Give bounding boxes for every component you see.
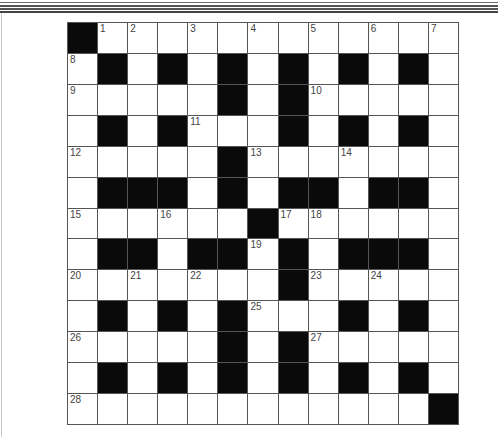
crossword-cell[interactable] xyxy=(248,394,278,425)
crossword-cell[interactable] xyxy=(188,147,218,178)
crossword-cell[interactable] xyxy=(128,116,158,147)
crossword-cell[interactable] xyxy=(158,332,188,363)
crossword-cell[interactable] xyxy=(399,23,429,54)
crossword-cell[interactable] xyxy=(248,116,278,147)
crossword-cell[interactable] xyxy=(128,54,158,85)
crossword-cell[interactable] xyxy=(188,301,218,332)
crossword-cell[interactable] xyxy=(399,394,429,425)
crossword-cell[interactable] xyxy=(399,147,429,178)
crossword-cell[interactable]: 4 xyxy=(248,23,278,54)
crossword-cell[interactable] xyxy=(248,363,278,394)
crossword-cell[interactable] xyxy=(309,54,339,85)
crossword-cell[interactable] xyxy=(429,301,459,332)
crossword-cell[interactable] xyxy=(218,209,248,240)
crossword-cell[interactable] xyxy=(399,270,429,301)
crossword-cell[interactable] xyxy=(98,394,128,425)
crossword-cell[interactable] xyxy=(248,178,278,209)
crossword-cell[interactable]: 23 xyxy=(309,270,339,301)
crossword-cell[interactable] xyxy=(339,23,369,54)
crossword-cell[interactable] xyxy=(309,363,339,394)
crossword-cell[interactable]: 1 xyxy=(98,23,128,54)
crossword-cell[interactable] xyxy=(128,363,158,394)
crossword-cell[interactable] xyxy=(158,270,188,301)
crossword-cell[interactable] xyxy=(248,85,278,116)
crossword-cell[interactable] xyxy=(98,270,128,301)
crossword-cell[interactable]: 26 xyxy=(68,332,98,363)
crossword-cell[interactable] xyxy=(279,147,309,178)
crossword-cell[interactable]: 6 xyxy=(369,23,399,54)
crossword-cell[interactable] xyxy=(369,394,399,425)
crossword-cell[interactable] xyxy=(339,209,369,240)
crossword-cell[interactable] xyxy=(429,147,459,178)
crossword-cell[interactable]: 22 xyxy=(188,270,218,301)
crossword-cell[interactable]: 28 xyxy=(68,394,98,425)
crossword-cell[interactable] xyxy=(188,209,218,240)
crossword-cell[interactable]: 11 xyxy=(188,116,218,147)
crossword-cell[interactable]: 24 xyxy=(369,270,399,301)
crossword-cell[interactable]: 14 xyxy=(339,147,369,178)
crossword-cell[interactable] xyxy=(429,209,459,240)
crossword-cell[interactable] xyxy=(188,332,218,363)
crossword-cell[interactable] xyxy=(158,147,188,178)
crossword-cell[interactable] xyxy=(429,116,459,147)
crossword-cell[interactable] xyxy=(369,147,399,178)
crossword-cell[interactable]: 16 xyxy=(158,209,188,240)
crossword-cell[interactable]: 7 xyxy=(429,23,459,54)
crossword-cell[interactable] xyxy=(248,270,278,301)
crossword-cell[interactable] xyxy=(158,85,188,116)
crossword-cell[interactable] xyxy=(98,147,128,178)
crossword-cell[interactable] xyxy=(128,332,158,363)
crossword-cell[interactable] xyxy=(339,85,369,116)
crossword-cell[interactable] xyxy=(68,301,98,332)
crossword-cell[interactable]: 21 xyxy=(128,270,158,301)
crossword-cell[interactable] xyxy=(429,332,459,363)
crossword-cell[interactable] xyxy=(188,85,218,116)
crossword-cell[interactable] xyxy=(158,394,188,425)
crossword-cell[interactable] xyxy=(68,116,98,147)
crossword-cell[interactable] xyxy=(369,209,399,240)
crossword-cell[interactable] xyxy=(188,54,218,85)
crossword-cell[interactable]: 18 xyxy=(309,209,339,240)
crossword-cell[interactable] xyxy=(309,301,339,332)
crossword-cell[interactable] xyxy=(369,363,399,394)
crossword-cell[interactable] xyxy=(429,363,459,394)
crossword-cell[interactable] xyxy=(188,178,218,209)
crossword-cell[interactable] xyxy=(188,394,218,425)
crossword-cell[interactable] xyxy=(429,239,459,270)
crossword-cell[interactable] xyxy=(369,332,399,363)
crossword-cell[interactable] xyxy=(399,209,429,240)
crossword-cell[interactable] xyxy=(279,394,309,425)
crossword-cell[interactable] xyxy=(399,85,429,116)
crossword-cell[interactable] xyxy=(248,54,278,85)
crossword-cell[interactable] xyxy=(188,363,218,394)
crossword-cell[interactable]: 10 xyxy=(309,85,339,116)
crossword-cell[interactable]: 25 xyxy=(248,301,278,332)
crossword-cell[interactable] xyxy=(339,394,369,425)
crossword-cell[interactable] xyxy=(369,54,399,85)
crossword-cell[interactable] xyxy=(128,209,158,240)
crossword-cell[interactable]: 12 xyxy=(68,147,98,178)
crossword-cell[interactable] xyxy=(309,394,339,425)
crossword-cell[interactable] xyxy=(399,332,429,363)
crossword-cell[interactable] xyxy=(309,239,339,270)
crossword-cell[interactable]: 2 xyxy=(128,23,158,54)
crossword-cell[interactable] xyxy=(339,178,369,209)
crossword-cell[interactable] xyxy=(68,363,98,394)
crossword-cell[interactable] xyxy=(218,270,248,301)
crossword-cell[interactable] xyxy=(158,23,188,54)
crossword-cell[interactable] xyxy=(309,147,339,178)
crossword-cell[interactable] xyxy=(429,178,459,209)
crossword-cell[interactable] xyxy=(98,85,128,116)
crossword-cell[interactable] xyxy=(309,116,339,147)
crossword-cell[interactable] xyxy=(68,239,98,270)
crossword-cell[interactable] xyxy=(369,85,399,116)
crossword-cell[interactable] xyxy=(98,209,128,240)
crossword-cell[interactable] xyxy=(429,85,459,116)
crossword-cell[interactable] xyxy=(339,270,369,301)
crossword-cell[interactable]: 20 xyxy=(68,270,98,301)
crossword-cell[interactable] xyxy=(218,394,248,425)
crossword-cell[interactable] xyxy=(218,116,248,147)
crossword-cell[interactable] xyxy=(369,301,399,332)
crossword-cell[interactable]: 27 xyxy=(309,332,339,363)
crossword-cell[interactable] xyxy=(248,332,278,363)
